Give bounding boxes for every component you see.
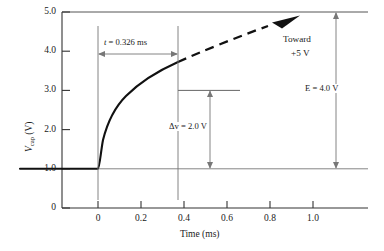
deltav-arrowhead-top bbox=[207, 90, 213, 97]
delta-v-label: Δv = 2.0 V bbox=[168, 122, 208, 131]
y-tick-label-2: 2.0 bbox=[30, 125, 56, 135]
t-measure-arrowhead-right bbox=[171, 51, 178, 57]
y-axis-title-symbol: V bbox=[24, 146, 34, 152]
x-tick-label-0-4: 0.4 bbox=[169, 214, 199, 224]
x-tick-label-1-0: 1.0 bbox=[298, 214, 328, 224]
t-interval-label-value: = 0.326 ms bbox=[106, 37, 147, 47]
x-tick-label-0: 0 bbox=[83, 214, 113, 224]
y-axis-title-subscript: cap bbox=[28, 137, 35, 146]
y-tick-label-0: 0 bbox=[30, 203, 56, 213]
y-axis-ticks bbox=[62, 12, 70, 208]
x-tick-label-0-6: 0.6 bbox=[212, 214, 242, 224]
x-tick-label-0-2: 0.2 bbox=[126, 214, 156, 224]
emf-arrowhead-bottom bbox=[333, 162, 339, 169]
extrapolation-dashed-curve bbox=[178, 26, 268, 62]
toward-label-line2: +5 V bbox=[291, 49, 310, 58]
chart-figure: Vcap (V) 5.0 4.0 3.0 2.0 1.0 0 0 0.2 0.4… bbox=[0, 0, 384, 251]
toward-label-line1: Toward bbox=[283, 35, 311, 44]
x-tick-label-0-8: 0.8 bbox=[255, 214, 285, 224]
y-tick-label-4: 4.0 bbox=[30, 46, 56, 56]
x-axis-title: Time (ms) bbox=[180, 230, 220, 240]
emf-arrowhead-top bbox=[333, 12, 339, 19]
t-measure-arrowhead-left bbox=[98, 51, 105, 57]
emf-label: E = 4.0 V bbox=[304, 84, 339, 93]
y-tick-label-1: 1.0 bbox=[30, 164, 56, 174]
extrapolation-arrowhead bbox=[272, 16, 300, 29]
capacitor-charging-curve bbox=[20, 62, 178, 169]
y-tick-label-5: 5.0 bbox=[30, 7, 56, 17]
y-tick-label-3: 3.0 bbox=[30, 85, 56, 95]
x-axis-ticks bbox=[98, 201, 313, 208]
t-interval-label: t = 0.326 ms bbox=[103, 38, 148, 47]
deltav-arrowhead-bottom bbox=[207, 162, 213, 169]
